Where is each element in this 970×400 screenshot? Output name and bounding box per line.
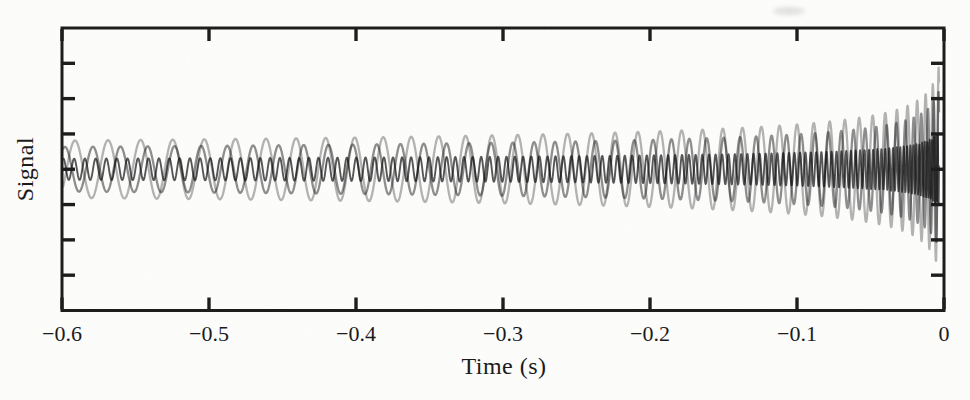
y-axis-label: Signal: [12, 137, 39, 201]
scan-smudge: [773, 7, 805, 15]
waveform-curves: [63, 68, 939, 261]
x-axis-tick-label: −0.2: [630, 321, 670, 347]
x-axis-tick-label: −0.1: [777, 321, 817, 347]
figure: Signal Time (s) −0.6−0.5−0.4−0.3−0.2−0.1…: [0, 0, 970, 400]
x-axis-tick-label: −0.3: [483, 321, 523, 347]
x-axis-tick-label: −0.6: [42, 321, 82, 347]
x-axis-tick-label: 0: [939, 321, 950, 347]
x-axis-tick-label: −0.4: [336, 321, 376, 347]
x-axis-tick-label: −0.5: [189, 321, 229, 347]
x-axis-label: Time (s): [461, 353, 546, 380]
